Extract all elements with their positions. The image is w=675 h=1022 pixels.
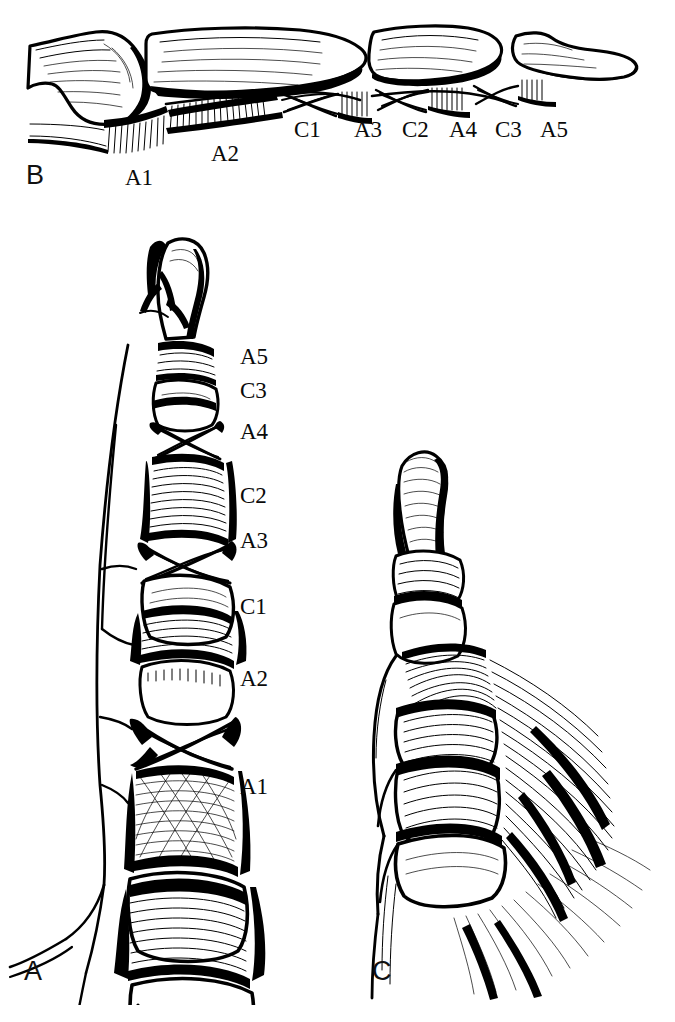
label-a-c1: C1: [240, 595, 267, 618]
label-a-a3: A3: [240, 529, 268, 552]
label-b-a5: A5: [540, 118, 568, 141]
pulley-a4-a: [140, 454, 237, 547]
label-b-a2: A2: [211, 142, 239, 165]
label-a-a5: A5: [240, 345, 268, 368]
anatomical-figure-plate: C1 A3 C2 A4 C3 A5 A2 A1 B: [0, 0, 675, 1022]
a1-pulley-opening-c: [396, 835, 506, 906]
label-a-a2: A2: [240, 667, 268, 690]
label-a-a4: A4: [240, 420, 268, 443]
distal-phalanx-bone: [513, 33, 637, 81]
middle-phalanx-bone: [369, 26, 502, 86]
panel-c-oblique-view: [350, 440, 675, 1000]
label-b-c2: C2: [402, 118, 429, 141]
dip-joint-a: [152, 380, 218, 431]
label-b-a3: A3: [354, 118, 382, 141]
panel-a-volar-view: A5 C3 A4 C2 A3 C1 A2 A1: [0, 225, 300, 1005]
figure-caption-strip: [0, 1013, 675, 1022]
label-b-a4: A4: [449, 118, 477, 141]
label-a-c3: C3: [240, 379, 267, 402]
pulley-a2-a: [124, 765, 251, 877]
fingertip-distal-phalanx-a: [140, 239, 208, 339]
joint-window-a3: [140, 661, 233, 725]
metacarpal-head-bone: [28, 32, 150, 125]
label-a-c2: C2: [240, 484, 267, 507]
fingertip-c: [393, 452, 448, 560]
pulley-c1-b: [282, 94, 338, 116]
panel-b-lateral-view: C1 A3 C2 A4 C3 A5 A2 A1 B: [0, 0, 675, 200]
finger-radial-border-c: [372, 656, 398, 998]
proximal-phalanx-bone: [146, 28, 366, 99]
panel-c-drawing: [350, 440, 675, 1000]
panel-b-drawing: [0, 0, 675, 200]
neurovascular-bundle-a: [10, 345, 136, 1005]
label-b-c1: C1: [294, 118, 321, 141]
pulley-a5-b: [518, 80, 556, 107]
panel-letter-a: A: [24, 958, 42, 985]
label-b-c3: C3: [495, 118, 522, 141]
panel-letter-b: B: [26, 162, 44, 189]
panel-letter-c: C: [372, 958, 392, 985]
a2-pulley-c: [396, 755, 502, 846]
label-b-a1: A1: [125, 166, 153, 189]
label-a-a1: A1: [240, 775, 268, 798]
